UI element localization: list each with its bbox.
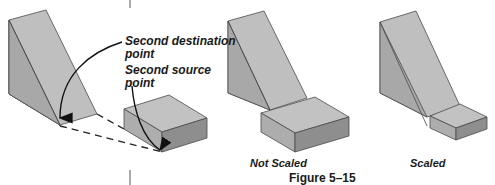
wedge-not-scaled	[228, 11, 307, 110]
callout-destination-line2: point	[125, 48, 236, 61]
wedge-before	[9, 10, 97, 126]
figure-caption: Figure 5–15	[289, 171, 356, 185]
callout-second-destination: Second destination point	[125, 35, 236, 61]
label-scaled: Scaled	[410, 157, 445, 170]
label-not-scaled: Not Scaled	[250, 157, 307, 170]
box-before	[124, 95, 207, 152]
callout-second-source: Second source point	[125, 64, 211, 90]
callout-source-line2: point	[125, 77, 211, 90]
